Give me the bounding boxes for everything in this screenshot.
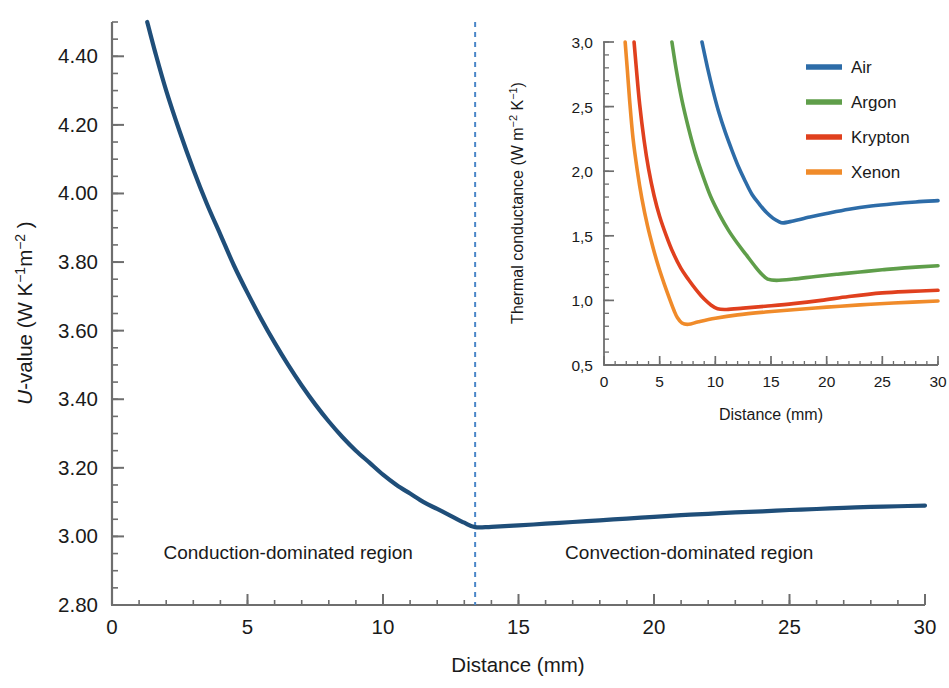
inset-y-tick-label: 1,5	[571, 228, 593, 245]
inset-x-tick-label: 10	[707, 373, 725, 390]
main-x-tick-label: 25	[778, 615, 801, 638]
conduction-region-label: Conduction-dominated region	[164, 542, 413, 563]
chart-canvas: 051015202530 2.803.003.203.403.603.804.0…	[0, 0, 949, 688]
main-y-tick-label: 3.00	[58, 524, 98, 547]
legend-label-argon: Argon	[851, 93, 896, 112]
inset-y-tick-label: 3,0	[571, 34, 593, 51]
main-y-axis-title-sup2: −2	[12, 234, 28, 250]
main-x-tick-label: 30	[914, 615, 937, 638]
inset-y-tick-label: 2,0	[571, 163, 593, 180]
main-x-tick-label: 10	[372, 615, 395, 638]
main-y-tick-label: 3.80	[58, 250, 98, 273]
inset-x-tick-label: 5	[655, 373, 664, 390]
main-y-tick-label: 3.60	[58, 319, 98, 342]
main-y-axis-title-italic: U	[13, 390, 36, 405]
legend-label-xenon: Xenon	[851, 163, 900, 182]
inset-y-tick-label: 0,5	[571, 357, 593, 374]
main-y-axis-title-mid: m	[13, 250, 36, 267]
inset-y-axis-title-mid: K	[509, 100, 526, 115]
inset-x-tick-label: 25	[874, 373, 891, 390]
inset-y-tick-label: 2,5	[571, 99, 593, 116]
main-x-tick-label: 15	[507, 615, 530, 638]
inset-plot: 051015202530 0,51,01,52,02,53,0 Distance…	[507, 34, 947, 423]
inset-y-tick-label: 1,0	[571, 292, 593, 309]
main-x-tick-label: 0	[106, 615, 117, 638]
main-y-axis-title: U-value (W K−1m−2 )	[12, 221, 36, 404]
inset-x-tick-label: 20	[818, 373, 836, 390]
inset-y-axis-title-sup2: −1	[507, 87, 519, 99]
inset-x-tick-labels: 051015202530	[600, 373, 947, 390]
inset-x-tick-label: 30	[929, 373, 947, 390]
inset-x-tick-label: 0	[600, 373, 609, 390]
main-y-tick-label: 3.20	[58, 456, 98, 479]
main-y-tick-labels: 2.803.003.203.403.603.804.004.204.40	[58, 44, 98, 616]
main-y-axis-title-sup1: −1	[12, 267, 28, 283]
legend-label-air: Air	[851, 58, 872, 77]
inset-y-axis-title: Thermal conductance (W m−2 K−1)	[507, 82, 526, 324]
legend-label-krypton: Krypton	[851, 128, 910, 147]
main-y-tick-label: 4.00	[58, 181, 98, 204]
convection-region-label: Convection-dominated region	[565, 542, 813, 563]
inset-y-tick-labels: 0,51,01,52,02,53,0	[571, 34, 593, 374]
main-x-major-ticks	[112, 594, 925, 605]
inset-x-axis-title: Distance (mm)	[719, 406, 823, 423]
inset-x-tick-label: 15	[762, 373, 779, 390]
main-x-tick-label: 20	[643, 615, 666, 638]
main-y-tick-label: 4.40	[58, 44, 98, 67]
main-y-tick-label: 3.40	[58, 387, 98, 410]
main-y-tick-label: 2.80	[58, 593, 98, 616]
inset-y-axis-title-head: Thermal conductance (W m	[509, 127, 526, 324]
main-x-axis-title: Distance (mm)	[451, 653, 584, 676]
main-x-tick-labels: 051015202530	[106, 615, 936, 638]
inset-y-axis-title-tail: )	[509, 82, 526, 87]
main-y-tick-label: 4.20	[58, 113, 98, 136]
inset-y-axis-title-sup1: −2	[507, 115, 519, 127]
main-y-axis-title-tail: )	[13, 221, 36, 234]
main-y-axis-title-rest: -value (W K	[13, 282, 36, 389]
figure-root: 051015202530 2.803.003.203.403.603.804.0…	[0, 0, 949, 688]
main-x-tick-label: 5	[242, 615, 253, 638]
